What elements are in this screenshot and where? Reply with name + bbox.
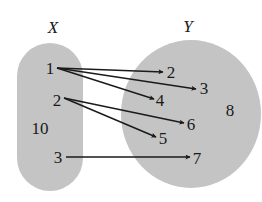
node-x1: 1 xyxy=(46,59,55,78)
node-y5: 5 xyxy=(159,129,168,148)
node-y7: 7 xyxy=(193,149,202,168)
set-y-label: Y xyxy=(183,17,194,36)
node-y6: 6 xyxy=(187,115,196,134)
node-y3: 3 xyxy=(200,79,209,98)
node-y8: 8 xyxy=(226,101,235,120)
set-x-label: X xyxy=(47,18,59,37)
node-x10: 10 xyxy=(32,119,49,138)
mapping-diagram: XY121032346578 xyxy=(0,0,262,202)
node-y2: 2 xyxy=(167,63,176,82)
node-x3: 3 xyxy=(54,148,63,167)
node-x2: 2 xyxy=(53,91,62,110)
node-y4: 4 xyxy=(156,91,165,110)
